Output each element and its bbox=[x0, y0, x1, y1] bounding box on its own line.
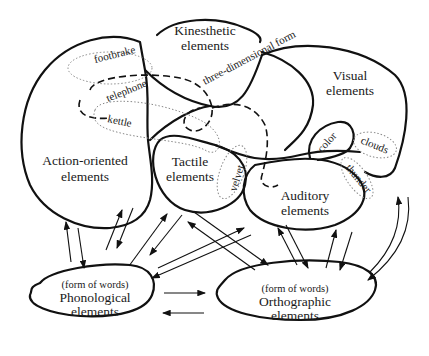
orthographic-label-1: Orthographic bbox=[259, 294, 331, 309]
dashed-boundary bbox=[79, 100, 110, 118]
kettle-label: kettle bbox=[107, 112, 134, 129]
auditory-label-1: Auditory bbox=[281, 188, 330, 203]
clouds-label: clouds bbox=[359, 134, 390, 156]
kinesthetic-label-1: Kinesthetic bbox=[174, 23, 235, 38]
phonological-label-2: elements bbox=[71, 304, 119, 319]
semantic-memory-diagram: Kinesthetic elements Visual elements Act… bbox=[0, 0, 429, 356]
footbrake-label: footbrake bbox=[93, 43, 137, 65]
auditory-label-2: elements bbox=[281, 203, 329, 218]
action-label-2: elements bbox=[61, 169, 109, 184]
tactile-label-2: elements bbox=[166, 169, 214, 184]
connector-line bbox=[150, 106, 210, 140]
visual-label-1: Visual bbox=[333, 68, 368, 83]
action-oriented-region bbox=[22, 37, 153, 228]
thunder-label: thunder bbox=[343, 162, 374, 196]
visual-label-2: elements bbox=[326, 83, 374, 98]
tactile-label-1: Tactile bbox=[172, 154, 209, 169]
phonological-label-1: Phonological bbox=[59, 290, 130, 305]
action-label-1: Action-oriented bbox=[42, 153, 128, 168]
telephone-label: telephone bbox=[104, 77, 148, 104]
kinesthetic-label-2: elements bbox=[181, 38, 229, 53]
visual-inner-boundary bbox=[262, 52, 313, 150]
orthographic-label-2: elements bbox=[271, 308, 319, 323]
